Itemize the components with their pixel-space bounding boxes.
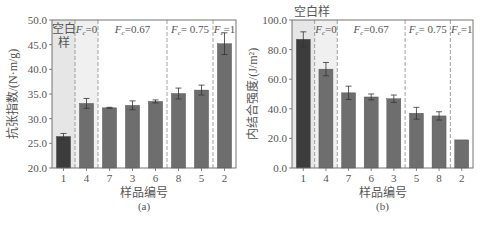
y-tick-label: 50.0 <box>28 14 48 26</box>
x-tick-label: 3 <box>130 172 136 184</box>
x-tick-label: 8 <box>176 172 182 184</box>
bar-6 <box>364 97 378 168</box>
y-tick-label: 25.0 <box>28 137 48 149</box>
chart-b-svg: 147635820.020.040.060.080.0100.0空白样Fc=0F… <box>245 0 487 227</box>
y-tick-label: 100.0 <box>262 14 287 26</box>
y-axis-label: 内结合强度/(J/m²) <box>245 48 260 140</box>
x-tick-label: 7 <box>346 172 352 184</box>
y-tick-label: 20.0 <box>28 162 48 174</box>
bar-4 <box>79 103 93 168</box>
x-axis-label: 样品编号 <box>359 185 407 200</box>
group-label-fc: Fc=0 <box>75 23 98 37</box>
y-axis-label: 抗张指数/(N·m/g) <box>5 49 20 140</box>
chart-b: 147635820.020.040.060.080.0100.0空白样Fc=0F… <box>245 0 487 227</box>
x-tick-label: 1 <box>301 172 307 184</box>
group-label-blank: 空白样 <box>294 4 330 19</box>
bar-7 <box>102 108 116 168</box>
group-label-fc: Fc= 0.75 <box>170 23 210 37</box>
group-label-fc: Fc=1 <box>450 23 473 37</box>
x-tick-label: 4 <box>84 172 90 184</box>
bar-5 <box>194 90 208 168</box>
bar-6 <box>148 101 162 168</box>
x-tick-label: 7 <box>107 172 113 184</box>
x-tick-label: 1 <box>61 172 67 184</box>
x-tick-label: 8 <box>436 172 442 184</box>
bar-8 <box>432 116 446 168</box>
x-tick-label: 2 <box>222 172 228 184</box>
bar-1 <box>296 39 310 168</box>
x-tick-label: 3 <box>391 172 397 184</box>
panel-label: (a) <box>138 200 151 213</box>
y-tick-label: 45.0 <box>28 39 48 51</box>
bar-1 <box>56 136 70 168</box>
y-tick-label: 30.0 <box>28 113 48 125</box>
y-tick-label: 40.0 <box>268 103 288 115</box>
chart-a: 1473685220.025.030.035.040.045.050.0空白样F… <box>0 0 245 227</box>
group-label-blank-line2: 样 <box>58 35 70 50</box>
y-tick-label: 60.0 <box>268 73 288 85</box>
y-tick-label: 0.0 <box>273 162 287 174</box>
bar-8 <box>171 94 185 168</box>
bar-5 <box>409 113 423 168</box>
bar-7 <box>342 93 356 168</box>
x-tick-label: 2 <box>459 172 465 184</box>
bar-3 <box>387 99 401 168</box>
bar-3 <box>125 105 139 168</box>
x-tick-label: 5 <box>199 172 205 184</box>
x-tick-label: 5 <box>414 172 420 184</box>
bar-2 <box>217 44 231 168</box>
x-tick-label: 6 <box>153 172 159 184</box>
panel-label: (b) <box>376 200 389 213</box>
group-label-fc: Fc=0 <box>314 23 337 37</box>
x-axis-label: 样品编号 <box>120 185 168 200</box>
y-tick-label: 35.0 <box>28 88 48 100</box>
bar-4 <box>319 69 333 168</box>
group-label-blank: 空白 <box>52 21 76 36</box>
group-label-fc: Fc=0.67 <box>353 23 390 37</box>
group-label-fc: Fc=1 <box>213 23 236 37</box>
bar-2 <box>455 140 469 168</box>
y-tick-label: 80.0 <box>268 44 288 56</box>
chart-a-svg: 1473685220.025.030.035.040.045.050.0空白样F… <box>0 0 245 227</box>
group-label-fc: Fc= 0.75 <box>408 23 448 37</box>
x-tick-label: 6 <box>368 172 374 184</box>
group-label-fc: Fc=0.67 <box>114 23 151 37</box>
y-tick-label: 40.0 <box>28 63 48 75</box>
y-tick-label: 20.0 <box>268 132 288 144</box>
x-tick-label: 4 <box>323 172 329 184</box>
